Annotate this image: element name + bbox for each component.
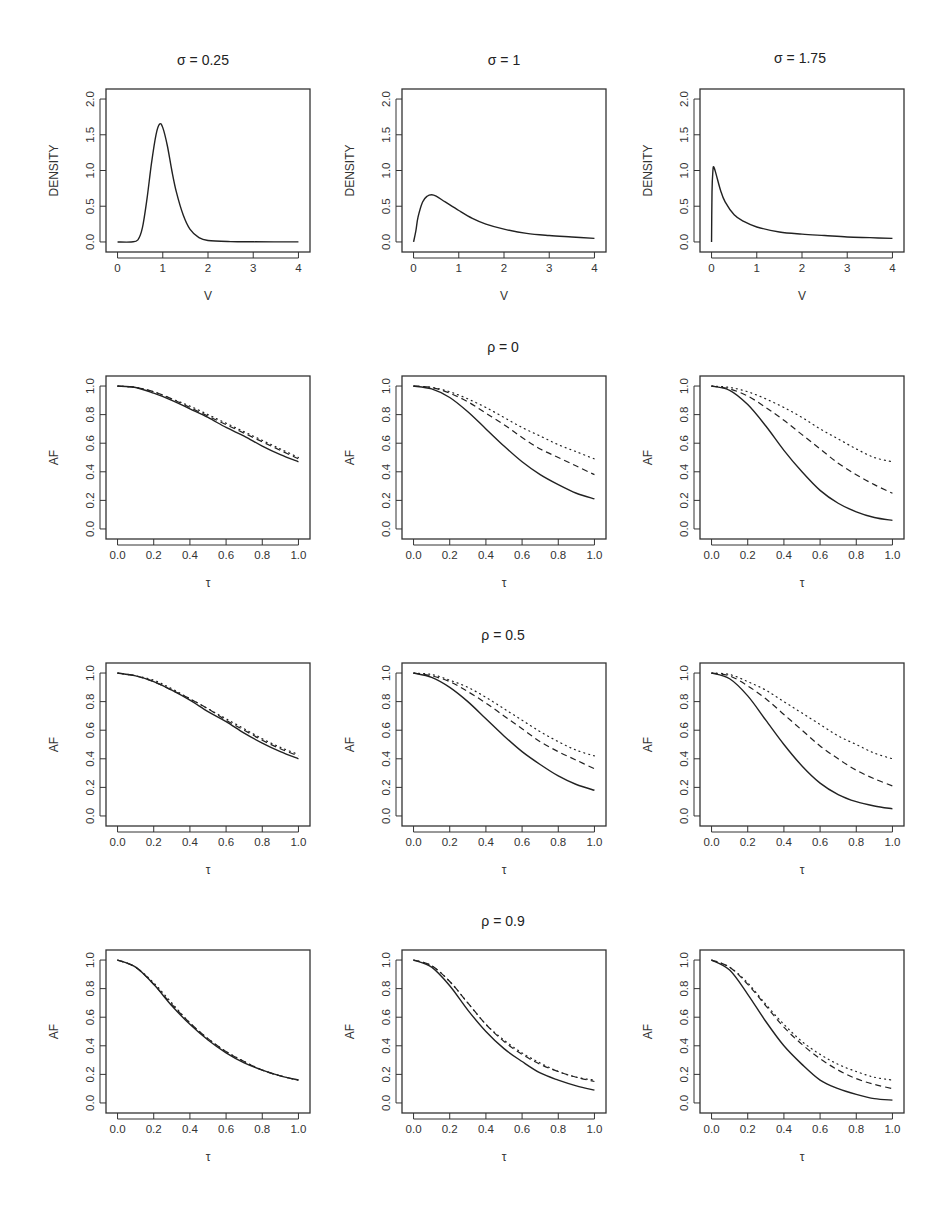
chart-panel-af-rho-0-sigma-0.25: 0.00.20.40.60.81.00.00.20.40.60.81.0τAF	[47, 376, 310, 590]
x-tick-label: 3	[546, 262, 552, 274]
x-tick-label: 1.0	[586, 549, 602, 561]
y-axis-label: AF	[343, 737, 357, 752]
y-tick-label: 0.0	[380, 1095, 392, 1111]
plots-canvas: 012340.00.51.01.52.0VDENSITY012340.00.51…	[0, 0, 950, 1211]
x-tick-label: 1.0	[884, 549, 900, 561]
y-tick-label: 0.8	[678, 694, 690, 710]
series-dotted	[712, 386, 893, 462]
x-tick-label: 0.0	[406, 836, 422, 848]
series-solid	[712, 673, 893, 809]
series-solid	[414, 386, 595, 499]
y-tick-label: 0.6	[380, 722, 392, 738]
series-dashed	[712, 386, 893, 493]
y-tick-label: 0.2	[678, 779, 690, 795]
x-axis-label: τ	[800, 576, 805, 590]
y-tick-label: 2.0	[84, 91, 96, 107]
y-tick-label: 2.0	[678, 91, 690, 107]
y-tick-label: 0.0	[678, 808, 690, 824]
x-tick-label: 0.0	[704, 549, 720, 561]
y-tick-label: 0.0	[380, 234, 392, 250]
y-tick-label: 0.4	[678, 750, 690, 767]
x-tick-label: 0.4	[776, 549, 793, 561]
y-tick-label: 0.0	[380, 521, 392, 537]
x-tick-label: 1	[160, 262, 166, 274]
x-tick-label: 0	[708, 262, 714, 274]
series-dotted	[712, 960, 893, 1080]
series-solid	[118, 960, 299, 1080]
x-tick-label: 0.0	[704, 1123, 720, 1135]
chart-panel-af-rho-0-sigma-1.75: 0.00.20.40.60.81.00.00.20.40.60.81.0τAF	[641, 376, 904, 590]
x-tick-label: 1	[754, 262, 760, 274]
y-axis-label: AF	[641, 737, 655, 752]
y-axis-label: AF	[343, 450, 357, 465]
y-tick-label: 1.0	[84, 378, 96, 394]
y-tick-label: 1.0	[84, 665, 96, 681]
series-density	[712, 167, 893, 242]
y-axis-label: AF	[47, 737, 61, 752]
x-tick-label: 0.4	[182, 836, 199, 848]
x-tick-label: 4	[591, 262, 598, 274]
plot-frame	[106, 663, 310, 826]
y-tick-label: 0.6	[380, 435, 392, 451]
x-tick-label: 0.6	[218, 549, 234, 561]
x-tick-label: 0	[410, 262, 416, 274]
x-axis-label: τ	[502, 863, 507, 877]
y-tick-label: 0.8	[380, 694, 392, 710]
x-tick-label: 0.8	[550, 549, 566, 561]
x-tick-label: 0.4	[478, 1123, 495, 1135]
y-tick-label: 1.0	[678, 163, 690, 179]
y-tick-label: 1.5	[678, 127, 690, 143]
x-tick-label: 2	[799, 262, 805, 274]
y-tick-label: 0.2	[84, 779, 96, 795]
y-tick-label: 1.0	[380, 952, 392, 968]
x-tick-label: 0.4	[776, 1123, 793, 1135]
series-dashed	[414, 673, 595, 769]
x-tick-label: 4	[889, 262, 896, 274]
x-tick-label: 0.6	[514, 1123, 530, 1135]
x-tick-label: 1.0	[884, 1123, 900, 1135]
figure-grid: σ = 0.25 σ = 1 σ = 1.75 ρ = 0 ρ = 0.5 ρ …	[0, 0, 950, 1211]
x-tick-label: 0.2	[442, 836, 458, 848]
x-axis-label: V	[500, 289, 508, 303]
y-tick-label: 1.5	[380, 127, 392, 143]
x-axis-label: V	[204, 289, 212, 303]
chart-panel-af-rho-0.5-sigma-0.25: 0.00.20.40.60.81.00.00.20.40.60.81.0τAF	[47, 663, 310, 877]
x-tick-label: 0.8	[254, 836, 270, 848]
x-tick-label: 2	[205, 262, 211, 274]
y-tick-label: 0.4	[84, 463, 96, 480]
y-axis-label: DENSITY	[641, 144, 655, 196]
x-tick-label: 0.2	[740, 836, 756, 848]
y-tick-label: 0.0	[380, 808, 392, 824]
x-tick-label: 0.8	[848, 549, 864, 561]
y-tick-label: 1.5	[84, 127, 96, 143]
x-tick-label: 0.2	[740, 1123, 756, 1135]
x-axis-label: τ	[206, 1150, 211, 1164]
x-tick-label: 0.0	[110, 1123, 126, 1135]
y-tick-label: 0.0	[84, 1095, 96, 1111]
y-tick-label: 0.8	[380, 407, 392, 423]
series-dotted	[414, 960, 595, 1080]
y-tick-label: 0.8	[84, 407, 96, 423]
series-dashed	[118, 386, 299, 459]
y-tick-label: 0.8	[678, 981, 690, 997]
series-solid	[414, 960, 595, 1090]
x-tick-label: 0.2	[146, 1123, 162, 1135]
x-tick-label: 0.8	[254, 549, 270, 561]
x-axis-label: τ	[502, 1150, 507, 1164]
y-axis-label: DENSITY	[47, 144, 61, 196]
plot-frame	[106, 89, 310, 252]
y-tick-label: 0.0	[678, 234, 690, 250]
x-tick-label: 0.8	[848, 1123, 864, 1135]
chart-panel-af-rho-0.5-sigma-1: 0.00.20.40.60.81.00.00.20.40.60.81.0τAF	[343, 663, 606, 877]
series-density	[414, 195, 595, 242]
x-tick-label: 4	[295, 262, 302, 274]
y-tick-label: 0.0	[84, 521, 96, 537]
plot-frame	[700, 376, 904, 539]
y-axis-label: DENSITY	[343, 144, 357, 196]
y-tick-label: 0.2	[678, 492, 690, 508]
y-tick-label: 0.2	[84, 492, 96, 508]
x-tick-label: 2	[501, 262, 507, 274]
y-tick-label: 0.5	[678, 198, 690, 214]
x-tick-label: 0.6	[218, 1123, 234, 1135]
y-tick-label: 0.0	[84, 808, 96, 824]
